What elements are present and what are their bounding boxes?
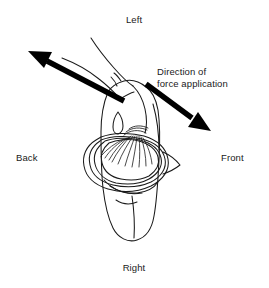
orientation-label-left: Left — [126, 14, 142, 26]
force-annotation-line-1: Direction of — [157, 66, 228, 78]
line-drawing-illustration — [0, 0, 269, 288]
orientation-label-back: Back — [16, 152, 38, 164]
force-annotation-line-2: force application — [157, 78, 228, 90]
orientation-label-right: Right — [123, 262, 146, 274]
force-direction-annotation: Direction of force application — [157, 66, 228, 90]
figure-container: Left Right Back Front Direction of force… — [0, 0, 269, 288]
figure-background — [0, 0, 269, 288]
orientation-label-front: Front — [221, 152, 244, 164]
